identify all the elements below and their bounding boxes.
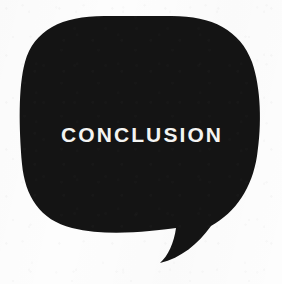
image-canvas: CONCLUSION: [0, 0, 282, 284]
bubble-label-conclusion: CONCLUSION: [0, 124, 282, 145]
